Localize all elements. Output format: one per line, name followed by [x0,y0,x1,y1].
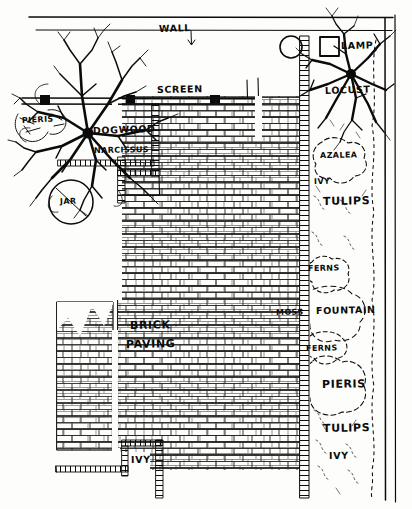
label-tulips-upper-right: TULIPS [323,195,370,207]
label-brick-line2: PAVING [126,338,175,350]
garden-plan-drawing: WALL SCREEN LAMP LOCUST PIERIS DOGWOOD N… [0,0,412,509]
label-locust: LOCUST [325,84,371,95]
label-fountain: FOUNTAIN [316,305,376,316]
label-tulips-lower-right: TULIPS [323,422,370,434]
label-pieris-upper: PIERIS [22,115,54,125]
label-pieris-lower: PIERIS [322,378,366,390]
locust-tree [296,8,396,150]
label-ivy-lower-right: IVY [329,451,349,461]
label-moss: MOSS [276,309,304,317]
label-jar: JAR [60,197,77,206]
label-dogwood: DOGWOOD [93,124,156,136]
label-screen: SCREEN [157,84,203,94]
label-ivy-upper-right: IVY [314,178,330,186]
brick-paving-left-extension [57,302,113,450]
label-ferns-lower: FERNS [306,344,338,353]
label-lamp: LAMP [341,40,373,50]
label-brick-line1: BRICK [130,319,171,331]
label-wall: WALL [159,23,191,33]
label-azalea: AZALEA [320,151,357,160]
label-ivy-bottom-left: IVY [131,455,151,465]
label-ferns-upper: FERNS [308,264,340,273]
label-narcissus: NARCISSUS [94,146,149,155]
